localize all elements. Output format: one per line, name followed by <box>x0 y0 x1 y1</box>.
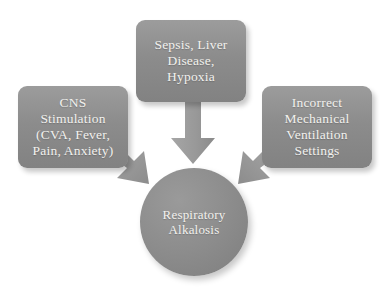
arrow-down-icon <box>170 96 216 174</box>
node-incorrect-ventilation-label: Incorrect Mechanical Ventilation Setting… <box>281 95 354 158</box>
node-respiratory-alkalosis[interactable]: Respiratory Alkalosis <box>140 168 248 276</box>
node-respiratory-alkalosis-label: Respiratory Alkalosis <box>159 207 230 237</box>
node-cns-stimulation-label: CNS Stimulation (CVA, Fever, Pain, Anxie… <box>29 95 118 158</box>
diagram-canvas: CNS Stimulation (CVA, Fever, Pain, Anxie… <box>0 0 387 287</box>
node-sepsis-liver-hypoxia-label: Sepsis, Liver Disease, Hypoxia <box>150 37 231 84</box>
node-cns-stimulation[interactable]: CNS Stimulation (CVA, Fever, Pain, Anxie… <box>18 86 128 168</box>
node-sepsis-liver-hypoxia[interactable]: Sepsis, Liver Disease, Hypoxia <box>136 20 246 102</box>
node-incorrect-ventilation[interactable]: Incorrect Mechanical Ventilation Setting… <box>262 86 372 168</box>
